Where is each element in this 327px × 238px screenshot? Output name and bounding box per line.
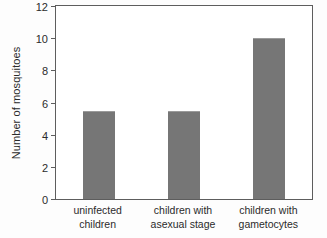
y-axis-tick: 2 (51, 167, 56, 168)
x-axis-category-label-line: uninfected (55, 203, 140, 217)
y-axis-title: Number of mosquitoes (4, 0, 28, 205)
y-axis-tick-label: 2 (42, 162, 48, 174)
x-axis-category-label-line: gametocytes (226, 217, 311, 231)
y-axis-tick-label: 6 (42, 98, 48, 110)
x-axis-category-label: children withasexual stage (140, 203, 225, 231)
bar-chart-figure: Number of mosquitoes 024681012 uninfecte… (0, 0, 327, 238)
x-axis-category-label: children withgametocytes (226, 203, 311, 231)
y-axis-tick: 10 (51, 38, 56, 39)
bar (253, 38, 285, 199)
y-axis-tick-label: 4 (42, 130, 48, 142)
bar (168, 111, 200, 199)
plot-area (56, 6, 312, 199)
x-axis-category-label: uninfectedchildren (55, 203, 140, 231)
y-axis-tick: 12 (51, 6, 56, 7)
x-axis-category-label-line: asexual stage (140, 217, 225, 231)
x-axis-category-label-line: children with (140, 203, 225, 217)
x-axis-category-labels: uninfectedchildrenchildren withasexual s… (55, 203, 313, 237)
y-axis-tick-label: 0 (42, 194, 48, 206)
y-axis-tick-label: 12 (36, 1, 48, 13)
bar (83, 111, 115, 199)
y-axis-title-text: Number of mosquitoes (10, 46, 22, 159)
y-axis-tick: 8 (51, 70, 56, 71)
plot-frame: 024681012 (55, 5, 313, 200)
x-axis-category-label-line: children with (226, 203, 311, 217)
x-axis-category-label-line: children (55, 217, 140, 231)
y-axis-tick-label: 8 (42, 65, 48, 77)
y-axis-tick: 4 (51, 135, 56, 136)
y-axis-tick: 0 (51, 199, 56, 200)
y-axis-tick-label: 10 (36, 33, 48, 45)
y-axis-tick: 6 (51, 103, 56, 104)
